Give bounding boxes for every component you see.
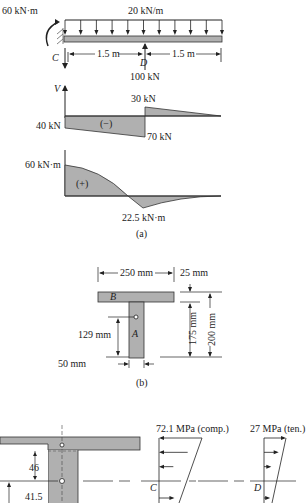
load-arrow-icon [79, 20, 83, 35]
load-arrow-icon [204, 20, 208, 35]
moment-left-value: 60 kN·m [25, 159, 61, 170]
beam-figure: 60 kN·m 20 kN/m 1.5 m 1.5 m C D [2, 5, 224, 82]
point-D-label-stress: D [253, 482, 262, 493]
load-arrow-icon [220, 20, 224, 35]
stress-arrow-icon [264, 465, 271, 469]
moment-arrow-icon [46, 22, 58, 46]
stress-distribution-C [159, 436, 202, 503]
moment-diagram: 60 kN·m (+) 22.5 kN·m (a) [25, 150, 221, 240]
load-arrow-icon [94, 20, 98, 35]
stress-figure: 46 41.5 C D 72.1 MPa (comp.) 27 MPa (ten… [0, 423, 305, 503]
span-right-label: 1.5 m [172, 48, 195, 59]
t-section-figure: 250 mm 25 mm B A 129 mm 50 mm 175 mm 200 [58, 267, 222, 389]
distributed-load-label: 20 kN/m [128, 5, 164, 16]
stress-arrow-icon [264, 496, 270, 500]
load-arrow-icon [173, 20, 177, 35]
support-C-label: C [52, 52, 59, 63]
load-arrow-icon [110, 20, 114, 35]
load-arrow-icon [189, 20, 193, 35]
shear-positive-region [145, 107, 221, 116]
stress-arrow-icon [264, 450, 279, 454]
C-stress-label: 72.1 MPa (comp.) [156, 423, 229, 435]
point-D-label: D [139, 57, 148, 68]
load-arrow-icon [142, 20, 146, 35]
shear-jump-top: 30 kN [131, 93, 156, 104]
span-left-label: 1.5 m [97, 48, 120, 59]
point-C-label: C [150, 482, 157, 493]
stress-distribution-D [264, 436, 286, 503]
web-part-label: A [131, 328, 139, 339]
shear-axis-label: V [54, 83, 62, 94]
moment-sign-label: (+) [76, 178, 88, 190]
shear-left-value: 40 kN [36, 120, 61, 131]
stress-arrow-icon [159, 496, 174, 500]
section-web [48, 450, 78, 503]
load-arrow-icon [126, 20, 130, 35]
beam-member [64, 36, 222, 42]
web-width-label: 50 mm [58, 358, 86, 369]
total-depth-label: 200 mm [206, 313, 217, 346]
stress-arrow-icon [159, 436, 202, 440]
stress-arrow-icon [159, 450, 188, 454]
shear-diagram: V 40 kN (−) 30 kN 70 kN [36, 83, 221, 142]
flange-part-label: B [110, 291, 116, 302]
shear-sign-label: (−) [100, 118, 112, 130]
caption-b: (b) [136, 377, 148, 389]
point-load-label: 100 kN [130, 71, 160, 82]
engineering-diagram: 60 kN·m 20 kN/m 1.5 m 1.5 m C D [0, 0, 307, 503]
load-arrow-icon [157, 20, 161, 35]
centroid-marker [134, 315, 138, 319]
fixed-support-icon [57, 28, 63, 44]
stress-arrow-icon [264, 436, 286, 440]
moment-min-value: 22.5 kN·m [122, 212, 166, 223]
distributed-load-arrows [63, 20, 224, 35]
caption-a: (a) [136, 228, 147, 240]
load-arrow-icon [63, 20, 67, 35]
shear-jump-bottom: 70 kN [147, 131, 172, 142]
stress-arrow-icon [159, 465, 173, 469]
moment-negative-region [128, 196, 221, 208]
moment-label: 60 kN·m [2, 5, 38, 16]
flange-dim-label: 25 mm [180, 267, 208, 278]
D-stress-label: 27 MPa (ten.) [250, 423, 305, 435]
dim-46-label: 46 [29, 462, 39, 473]
dim-41-5-label: 41.5 [25, 491, 43, 502]
centroid-dim-label: 129 mm [78, 329, 111, 340]
moment-positive-region [65, 165, 128, 196]
web-height-label: 175 mm [187, 312, 198, 345]
width-dim-label: 250 mm [120, 267, 153, 278]
